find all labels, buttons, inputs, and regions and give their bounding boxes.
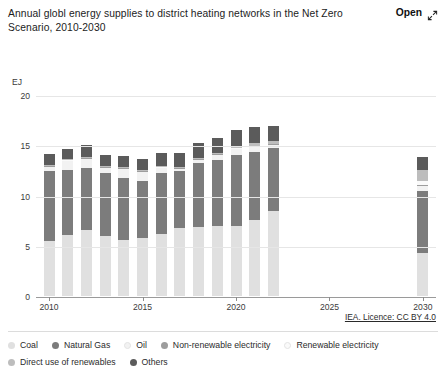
bar-segment-natural-gas (156, 173, 167, 233)
y-axis-ticks: 05101520 (0, 96, 36, 298)
legend-item-others[interactable]: Others (130, 357, 168, 367)
legend-item-label: Natural Gas (64, 340, 110, 350)
bar-segment-natural-gas (212, 160, 223, 225)
bar-2016[interactable] (156, 153, 167, 296)
bar-segment-others (137, 159, 148, 170)
y-axis-tick-label: 15 (4, 141, 30, 151)
legend-item-label: Oil (136, 340, 147, 350)
bar-segment-coal (193, 227, 204, 296)
legend-item-label: Coal (20, 340, 38, 350)
legend-item-renewable-electricity[interactable]: Renewable electricity (284, 340, 378, 350)
expand-arrow-icon (427, 7, 438, 18)
bar-segment-others (417, 157, 428, 170)
x-axis-tick-mark (236, 297, 237, 301)
legend-swatch-icon (8, 342, 15, 349)
y-axis-tick-label: 5 (4, 242, 30, 252)
bar-2018[interactable] (193, 143, 204, 296)
bar-segment-oil (62, 161, 73, 170)
chart-container: EJ 05101520 20102015202020252030 (0, 34, 446, 282)
legend-item-oil[interactable]: Oil (124, 340, 147, 350)
legend-item-label: Renewable electricity (296, 340, 378, 350)
bar-segment-natural-gas (268, 148, 279, 210)
bar-segment-others (118, 156, 129, 167)
gridline (36, 247, 436, 248)
x-axis-tick-label: 2030 (413, 302, 432, 312)
bar-segment-natural-gas (100, 173, 111, 235)
bar-segment-others (44, 154, 55, 165)
y-axis-tick-label: 20 (4, 91, 30, 101)
bar-2011[interactable] (62, 149, 73, 296)
bar-2022[interactable] (268, 126, 279, 296)
y-axis-tick-label: 0 (4, 292, 30, 302)
bar-2020[interactable] (231, 130, 242, 296)
legend-item-label: Non-renewable electricity (173, 340, 271, 350)
bar-segment-others (231, 130, 242, 146)
bar-segment-coal (100, 236, 111, 296)
bar-segment-coal (268, 211, 279, 296)
bar-2014[interactable] (118, 156, 129, 296)
bar-segment-natural-gas (417, 191, 428, 253)
bar-2010[interactable] (44, 154, 55, 296)
chart-header: Annual globl energy supplies to district… (0, 0, 446, 34)
x-axis-tick-label: 2025 (320, 302, 339, 312)
bar-segment-natural-gas (193, 163, 204, 226)
bar-segment-others (249, 127, 260, 143)
x-axis-tick-label: 2010 (40, 302, 59, 312)
bar-segment-others (193, 143, 204, 158)
bar-segment-natural-gas (174, 171, 185, 227)
bar-segment-natural-gas (249, 152, 260, 219)
legend-item-coal[interactable]: Coal (8, 340, 38, 350)
bar-segment-direct-use-of-renewables (417, 170, 428, 181)
open-button[interactable]: Open (396, 7, 438, 18)
legend-item-natural-gas[interactable]: Natural Gas (52, 340, 110, 350)
bar-2021[interactable] (249, 127, 260, 296)
bar-segment-coal (156, 234, 167, 296)
bar-segment-natural-gas (118, 178, 129, 239)
legend-swatch-icon (52, 342, 59, 349)
bar-2017[interactable] (174, 153, 185, 296)
bar-segment-others (62, 149, 73, 159)
bar-segment-natural-gas (231, 155, 242, 225)
open-button-label: Open (396, 7, 422, 18)
bar-segment-others (268, 126, 279, 141)
y-axis-tick-label: 10 (4, 192, 30, 202)
bar-segment-oil (81, 159, 92, 169)
bar-2013[interactable] (100, 155, 111, 296)
bar-segment-coal (44, 241, 55, 296)
legend-item-direct-use-of-renewables[interactable]: Direct use of renewables (8, 357, 116, 367)
y-axis-unit-label: EJ (12, 77, 22, 87)
bar-2030[interactable] (417, 157, 428, 296)
bar-segment-others (174, 153, 185, 167)
bar-segment-oil (118, 169, 129, 179)
bar-2012[interactable] (81, 145, 92, 296)
bar-segment-natural-gas (81, 168, 92, 229)
legend-item-label: Others (142, 357, 168, 367)
bar-segment-oil (137, 172, 148, 182)
legend-swatch-icon (284, 342, 291, 349)
page-title: Annual globl energy supplies to district… (8, 7, 396, 34)
bar-segment-coal (118, 240, 129, 296)
x-axis-tick-mark (329, 297, 330, 301)
bar-segment-others (100, 155, 111, 166)
bar-segment-natural-gas (62, 170, 73, 234)
x-axis-tick-mark (423, 297, 424, 301)
bar-2019[interactable] (212, 138, 223, 296)
legend-swatch-icon (8, 359, 15, 366)
legend-swatch-icon (124, 342, 131, 349)
bar-2015[interactable] (137, 159, 148, 296)
plot-area (36, 96, 436, 298)
gridline (36, 197, 436, 198)
gridline (36, 96, 436, 97)
legend-item-label: Direct use of renewables (20, 357, 116, 367)
x-axis-tick-mark (49, 297, 50, 301)
bar-segment-natural-gas (137, 181, 148, 237)
bar-segment-coal (62, 235, 73, 296)
licence-text[interactable]: IEA. Licence: CC BY 4.0 (345, 312, 436, 322)
legend-item-non-renewable-electricity[interactable]: Non-renewable electricity (161, 340, 271, 350)
bar-segment-coal (231, 226, 242, 296)
bar-segment-coal (249, 220, 260, 296)
x-axis-tick-label: 2015 (133, 302, 152, 312)
x-axis-tick-label: 2020 (226, 302, 245, 312)
bar-segment-coal (174, 228, 185, 296)
bar-segment-others (156, 153, 167, 166)
